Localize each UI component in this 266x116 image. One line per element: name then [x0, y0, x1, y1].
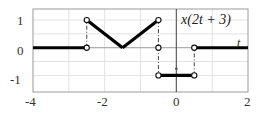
x-tick-label-2: 2	[244, 94, 251, 110]
y-tick-label-neg1: -1	[10, 72, 21, 88]
x-tick-label-neg4: -4	[25, 94, 36, 110]
y-tick-label-0: 0	[17, 43, 24, 59]
open-endpoint-marker	[84, 17, 89, 22]
y-tick-label-1: 1	[17, 13, 24, 29]
open-endpoint-marker	[156, 73, 161, 78]
x-tick-label-neg2: -2	[97, 94, 108, 110]
origin-tick	[175, 67, 178, 70]
signal-plot-figure: 1 0 -1 -4 -2 0 2 x(2t + 3) t	[0, 0, 266, 116]
signal-expression-label: x(2t + 3)	[181, 12, 231, 28]
x-tick-label-0: 0	[173, 94, 180, 110]
open-endpoint-marker	[192, 45, 197, 50]
open-endpoint-marker	[192, 73, 197, 78]
open-endpoint-marker	[84, 45, 89, 50]
open-endpoint-marker	[156, 45, 161, 50]
open-endpoint-marker	[156, 17, 161, 22]
t-axis-label: t	[237, 36, 240, 51]
